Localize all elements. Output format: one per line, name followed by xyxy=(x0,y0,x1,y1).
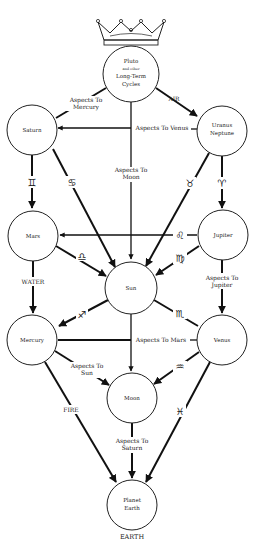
node-pluto-line4: Cycles xyxy=(122,81,140,88)
gemini-icon: ♊ xyxy=(28,177,37,188)
pisces-icon: ♓ xyxy=(176,406,185,417)
node-saturn-label: Saturn xyxy=(23,127,42,133)
node-pluto: Pluto and other Long-Term Cycles xyxy=(103,46,159,102)
node-mars-label: Mars xyxy=(26,233,41,239)
node-uranus-neptune: Uranus Neptune xyxy=(197,106,247,156)
taurus-icon: ♉ xyxy=(186,178,195,189)
label-aspects-saturn-2: Saturn xyxy=(122,444,143,451)
node-moon-label: Moon xyxy=(124,395,140,401)
sagittarius-icon: ♐ xyxy=(78,309,87,320)
node-pluto-line1: Pluto xyxy=(124,58,139,64)
leo-icon: ♌ xyxy=(176,230,185,241)
node-earth: Planet Earth xyxy=(107,480,157,530)
node-jupiter: Jupiter xyxy=(198,210,248,260)
label-aspects-venus: Aspects To Venus xyxy=(135,124,189,132)
edge-uranus-sun xyxy=(146,153,209,266)
edge-venus-earth xyxy=(146,362,210,482)
scorpio-icon: ♏ xyxy=(176,308,185,319)
node-moon: Moon xyxy=(107,373,157,423)
crown-icon xyxy=(96,19,165,45)
label-fire: FIRE xyxy=(63,406,78,413)
label-aspects-mercury-2: Mercury xyxy=(73,103,100,111)
label-aspects-moon-2: Moon xyxy=(122,173,139,180)
node-saturn: Saturn xyxy=(7,105,57,155)
node-mercury: Mercury xyxy=(7,315,57,365)
label-earth-element: EARTH xyxy=(120,533,145,541)
node-mars: Mars xyxy=(8,211,58,261)
node-pluto-line3: Long-Term xyxy=(116,73,147,80)
virgo-icon: ♍ xyxy=(176,253,185,264)
label-air: AIR xyxy=(167,95,180,102)
node-uranus-line1: Uranus xyxy=(212,122,233,128)
label-aspects-mars: Aspects To Mars xyxy=(135,336,186,344)
edge-pluto-uranus xyxy=(156,88,197,116)
libra-icon: ♎ xyxy=(78,251,87,262)
label-aspects-sun-2: Sun xyxy=(81,369,93,376)
node-pluto-line2: and other xyxy=(122,67,140,71)
node-sun: Sun xyxy=(105,262,157,314)
label-water: WATER xyxy=(22,278,45,285)
label-aspects-jupiter-2: Jupiter xyxy=(211,281,233,289)
node-venus: Venus xyxy=(197,315,247,365)
node-mercury-label: Mercury xyxy=(20,337,45,344)
aries-icon: ♈ xyxy=(218,178,227,189)
node-uranus-line2: Neptune xyxy=(210,130,234,137)
node-earth-line1: Planet xyxy=(123,497,142,503)
node-sun-label: Sun xyxy=(126,285,137,291)
edge-mercury-earth xyxy=(45,362,116,482)
cancer-icon: ♋ xyxy=(68,177,77,188)
aquarius-icon: ♒ xyxy=(176,361,185,372)
node-venus-label: Venus xyxy=(213,337,231,343)
node-earth-line2: Earth xyxy=(124,505,140,511)
tree-of-life-diagram: Pluto and other Long-Term Cycles Saturn … xyxy=(0,0,262,559)
node-jupiter-label: Jupiter xyxy=(212,232,232,239)
